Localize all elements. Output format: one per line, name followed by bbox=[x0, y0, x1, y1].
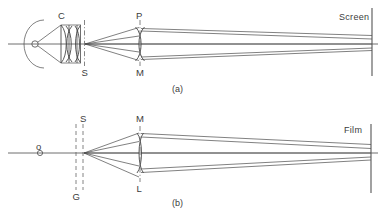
label-plane-s-b: S bbox=[80, 113, 87, 124]
label-mask-plane-m: M bbox=[136, 67, 144, 78]
panel-a: C S P M Screen (a) bbox=[8, 8, 378, 94]
label-mask-plane-m-b: M bbox=[136, 113, 144, 124]
label-screen: Screen bbox=[339, 12, 369, 22]
caption-panel-a: (a) bbox=[172, 84, 183, 94]
label-projection-lens-p: P bbox=[136, 10, 143, 21]
label-film: Film bbox=[344, 125, 362, 135]
label-object-point-o: o bbox=[36, 141, 42, 152]
caption-panel-b: (b) bbox=[172, 198, 183, 208]
label-plane-g-b: G bbox=[73, 191, 81, 202]
label-camera-lens-l: L bbox=[137, 183, 143, 194]
optical-diagram-figure: C S P M Screen (a) bbox=[0, 0, 389, 217]
panel-b: o S G M L Film (b) bbox=[8, 113, 378, 208]
figure-canvas: C S P M Screen (a) bbox=[0, 0, 389, 217]
label-condenser-c: C bbox=[58, 10, 65, 21]
label-slide-plane-s: S bbox=[82, 67, 89, 78]
ray-cone-narrow-b bbox=[84, 142, 139, 167]
